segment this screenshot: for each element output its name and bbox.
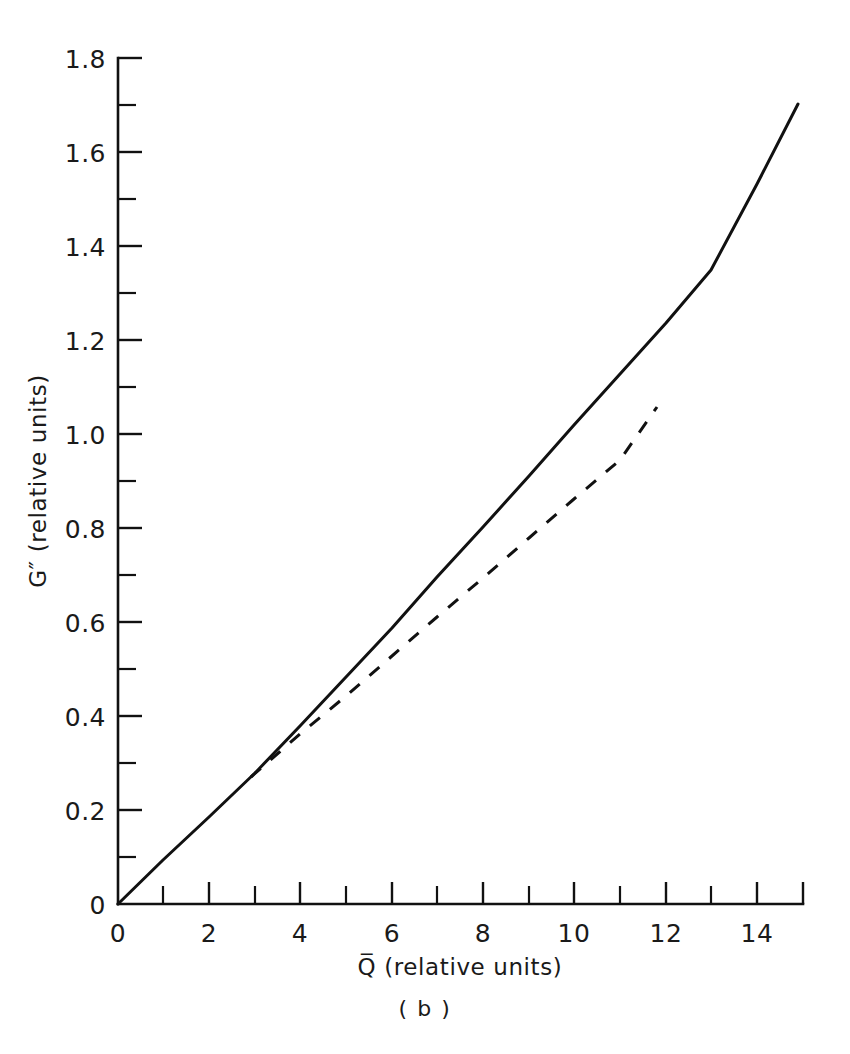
figure-caption: ( b ) xyxy=(398,996,451,1021)
y-axis-minor-ticks xyxy=(118,105,136,857)
y-ticklabel-0: 0 xyxy=(90,891,106,920)
x-axis-label: Q̅ (relative units) xyxy=(358,953,563,980)
x-ticklabel-12: 12 xyxy=(650,919,683,948)
dashed-curve xyxy=(251,407,657,777)
y-ticklabel-1.2: 1.2 xyxy=(65,327,106,356)
x-ticklabel-14: 14 xyxy=(741,919,774,948)
y-ticklabel-1.4: 1.4 xyxy=(65,233,106,262)
figure-panel: 1.8 1.6 1.4 1.2 1.0 0.8 0.6 0.4 0.2 0 0 … xyxy=(0,0,850,1054)
x-ticklabel-10: 10 xyxy=(558,919,591,948)
x-ticklabel-8: 8 xyxy=(475,919,491,948)
x-axis-minor-ticks xyxy=(163,886,711,904)
y-ticklabel-0.4: 0.4 xyxy=(65,703,106,732)
y-axis-major-ticks xyxy=(118,58,142,810)
y-axis-label: G″ (relative units) xyxy=(25,374,51,588)
y-ticklabel-0.6: 0.6 xyxy=(65,609,106,638)
y-ticklabel-1.8: 1.8 xyxy=(65,45,106,74)
y-ticklabel-0.2: 0.2 xyxy=(65,797,106,826)
x-ticklabel-0: 0 xyxy=(110,919,126,948)
x-ticklabel-2: 2 xyxy=(201,919,217,948)
axes-group xyxy=(118,58,803,904)
y-ticklabel-0.8: 0.8 xyxy=(65,515,106,544)
y-axis-tick-labels: 1.8 1.6 1.4 1.2 1.0 0.8 0.6 0.4 0.2 0 xyxy=(65,45,106,920)
y-ticklabel-1.0: 1.0 xyxy=(65,421,106,450)
x-axis-major-ticks xyxy=(209,882,803,904)
y-ticklabel-1.6: 1.6 xyxy=(65,139,106,168)
solid-curve xyxy=(118,104,798,904)
x-axis-tick-labels: 0 2 4 6 8 10 12 14 xyxy=(110,919,774,948)
x-ticklabel-6: 6 xyxy=(384,919,400,948)
x-ticklabel-4: 4 xyxy=(292,919,308,948)
chart-svg: 1.8 1.6 1.4 1.2 1.0 0.8 0.6 0.4 0.2 0 0 … xyxy=(0,0,850,1054)
